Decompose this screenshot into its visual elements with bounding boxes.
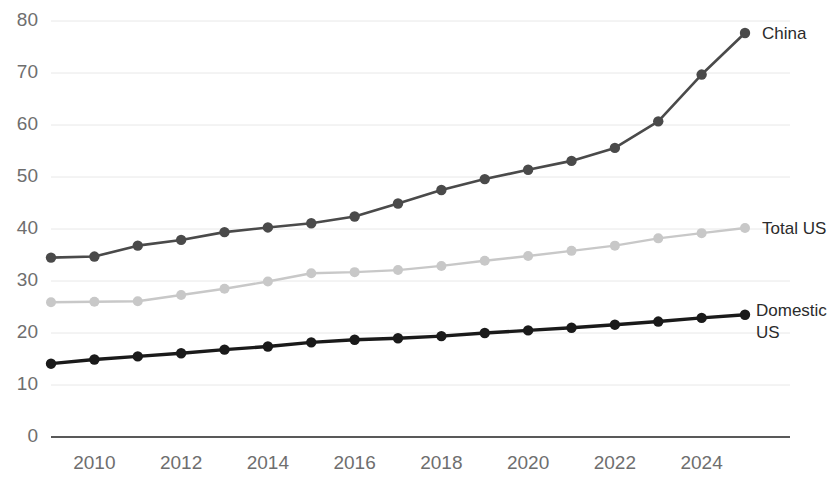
data-point-marker bbox=[263, 222, 273, 232]
data-point-marker bbox=[697, 228, 707, 238]
data-point-marker bbox=[610, 241, 620, 251]
data-point-marker bbox=[480, 174, 490, 184]
chart-canvas: 01020304050607080 2010201220142016201820… bbox=[0, 0, 836, 493]
data-point-marker bbox=[176, 290, 186, 300]
data-point-marker bbox=[393, 198, 403, 208]
x-axis-tick-label: 2020 bbox=[507, 452, 549, 473]
data-point-marker bbox=[696, 69, 706, 79]
series-total-us bbox=[46, 223, 750, 307]
data-point-marker bbox=[436, 331, 446, 341]
y-axis-tick-label: 0 bbox=[27, 425, 38, 446]
data-point-marker bbox=[653, 233, 663, 243]
series-label-domestic-us-line2: US bbox=[756, 323, 780, 342]
data-point-marker bbox=[740, 310, 750, 320]
data-point-marker bbox=[349, 211, 359, 221]
data-point-marker bbox=[740, 223, 750, 233]
data-point-marker bbox=[480, 328, 490, 338]
y-axis-tick-label: 40 bbox=[17, 217, 38, 238]
y-axis-tick-label: 70 bbox=[17, 61, 38, 82]
data-point-marker bbox=[350, 267, 360, 277]
y-axis-tick-labels: 01020304050607080 bbox=[17, 9, 38, 446]
series-domestic-us bbox=[46, 310, 750, 369]
y-axis-tick-label: 10 bbox=[17, 373, 38, 394]
data-point-marker bbox=[653, 116, 663, 126]
data-point-marker bbox=[436, 185, 446, 195]
series-label-china: China bbox=[762, 24, 807, 43]
data-point-marker bbox=[523, 165, 533, 175]
data-point-marker bbox=[610, 143, 620, 153]
data-point-marker bbox=[349, 335, 359, 345]
data-point-marker bbox=[46, 297, 56, 307]
y-axis-tick-label: 30 bbox=[17, 269, 38, 290]
line-chart: 01020304050607080 2010201220142016201820… bbox=[0, 0, 836, 493]
data-point-marker bbox=[219, 227, 229, 237]
data-point-marker bbox=[480, 256, 490, 266]
data-point-marker bbox=[219, 344, 229, 354]
data-point-marker bbox=[176, 348, 186, 358]
data-point-marker bbox=[696, 313, 706, 323]
data-point-marker bbox=[306, 218, 316, 228]
data-point-marker bbox=[263, 277, 273, 287]
data-point-marker bbox=[393, 333, 403, 343]
series-label-total-us: Total US bbox=[762, 219, 826, 238]
data-point-marker bbox=[133, 296, 143, 306]
data-point-marker bbox=[89, 251, 99, 261]
x-axis-tick-label: 2014 bbox=[247, 452, 290, 473]
x-axis-tick-label: 2016 bbox=[333, 452, 375, 473]
data-point-marker bbox=[566, 323, 576, 333]
data-point-marker bbox=[523, 251, 533, 261]
x-axis-tick-label: 2022 bbox=[594, 452, 636, 473]
series-china bbox=[46, 28, 750, 263]
y-axis-tick-label: 60 bbox=[17, 113, 38, 134]
data-point-marker bbox=[393, 265, 403, 275]
data-series-group bbox=[46, 28, 750, 369]
y-axis-tick-label: 50 bbox=[17, 165, 38, 186]
data-point-marker bbox=[46, 252, 56, 262]
data-point-marker bbox=[89, 297, 99, 307]
x-axis-tick-label: 2018 bbox=[420, 452, 462, 473]
data-point-marker bbox=[46, 358, 56, 368]
data-point-marker bbox=[133, 240, 143, 250]
data-point-marker bbox=[436, 261, 446, 271]
x-axis-tick-label: 2024 bbox=[680, 452, 723, 473]
data-point-marker bbox=[740, 28, 750, 38]
x-axis-tick-label: 2012 bbox=[160, 452, 202, 473]
data-point-marker bbox=[176, 235, 186, 245]
series-label-domestic-us-line1: Domestic bbox=[756, 301, 827, 320]
data-point-marker bbox=[306, 337, 316, 347]
data-point-marker bbox=[567, 246, 577, 256]
data-point-marker bbox=[89, 354, 99, 364]
series-line bbox=[51, 33, 745, 258]
y-axis-tick-label: 20 bbox=[17, 321, 38, 342]
data-point-marker bbox=[610, 319, 620, 329]
data-point-marker bbox=[133, 351, 143, 361]
x-axis-tick-labels: 20102012201420162018202020222024 bbox=[73, 452, 723, 473]
data-point-marker bbox=[306, 268, 316, 278]
data-point-marker bbox=[220, 284, 230, 294]
gridlines-group bbox=[51, 21, 790, 385]
x-axis-tick-label: 2010 bbox=[73, 452, 115, 473]
data-point-marker bbox=[566, 156, 576, 166]
y-axis-tick-label: 80 bbox=[17, 9, 38, 30]
data-point-marker bbox=[263, 341, 273, 351]
data-point-marker bbox=[653, 316, 663, 326]
data-point-marker bbox=[523, 325, 533, 335]
